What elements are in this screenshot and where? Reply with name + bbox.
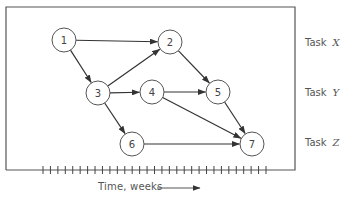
edge-1-to-3	[70, 50, 91, 82]
node-5: 5	[206, 80, 230, 104]
task-label-text: Task	[305, 137, 327, 148]
task-variable: X	[333, 37, 340, 48]
node-3: 3	[86, 81, 110, 105]
edge-3-to-6	[105, 103, 125, 134]
node-6: 6	[120, 132, 144, 156]
edge-4-to-7	[163, 98, 241, 139]
task-label-y: TaskY	[305, 87, 339, 98]
network-diagram: 1234567	[0, 0, 345, 199]
edge-2-to-5	[178, 51, 209, 83]
task-label-text: Task	[305, 37, 327, 48]
edge-1-to-2	[76, 40, 158, 42]
node-label: 2	[167, 37, 173, 48]
task-label-text: Task	[305, 87, 327, 98]
node-label: 1	[61, 35, 67, 46]
task-label-z: TaskZ	[305, 137, 340, 148]
edge-3-to-4	[110, 92, 140, 93]
node-4: 4	[140, 80, 164, 104]
node-label: 4	[149, 87, 155, 98]
node-label: 6	[129, 139, 135, 150]
edge-5-to-7	[225, 102, 246, 133]
node-2: 2	[158, 30, 182, 54]
task-variable: Z	[333, 137, 340, 148]
node-label: 5	[215, 87, 221, 98]
node-label: 3	[95, 88, 101, 99]
node-7: 7	[240, 132, 264, 156]
task-label-x: TaskX	[305, 37, 340, 48]
node-label: 7	[249, 139, 255, 150]
task-variable: Y	[333, 87, 340, 98]
nodes: 1234567	[52, 28, 264, 156]
time-axis-label: Time, weeks	[98, 181, 163, 192]
node-1: 1	[52, 28, 76, 52]
